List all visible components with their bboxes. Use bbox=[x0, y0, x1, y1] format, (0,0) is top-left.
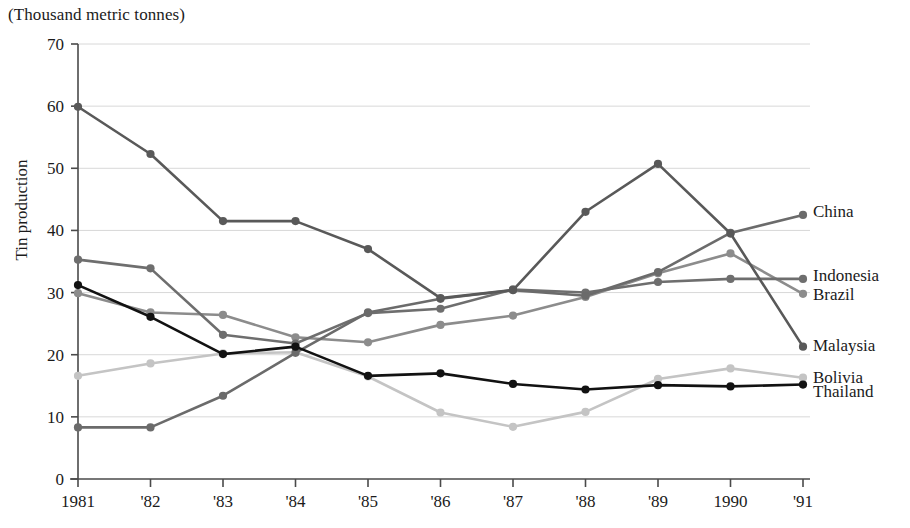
x-tick-label: '88 bbox=[575, 492, 595, 511]
data-point-china bbox=[74, 423, 82, 431]
data-point-indonesia bbox=[654, 278, 662, 286]
data-series-group bbox=[74, 103, 807, 432]
data-point-malaysia bbox=[726, 229, 734, 237]
data-point-bolivia bbox=[581, 408, 589, 416]
data-point-indonesia bbox=[74, 256, 82, 264]
y-tick-labels: 010203040506070 bbox=[47, 35, 64, 489]
data-point-china bbox=[581, 292, 589, 300]
data-point-malaysia bbox=[654, 160, 662, 168]
data-point-thailand bbox=[581, 385, 589, 393]
legend-label-china: China bbox=[813, 202, 854, 222]
data-point-china bbox=[799, 211, 807, 219]
x-tick-label: '86 bbox=[430, 492, 450, 511]
data-point-thailand bbox=[219, 350, 227, 358]
y-tick-label: 30 bbox=[47, 284, 64, 303]
data-point-bolivia bbox=[146, 359, 154, 367]
x-tick-label: '85 bbox=[358, 492, 378, 511]
data-point-thailand bbox=[74, 281, 82, 289]
x-tick-label: '83 bbox=[213, 492, 233, 511]
x-tick-label: '87 bbox=[503, 492, 524, 511]
legend-label-malaysia: Malaysia bbox=[813, 336, 875, 356]
data-point-malaysia bbox=[74, 103, 82, 111]
data-point-brazil bbox=[726, 249, 734, 257]
data-point-thailand bbox=[726, 382, 734, 390]
x-tick-label: '91 bbox=[793, 492, 813, 511]
data-point-china bbox=[654, 268, 662, 276]
data-point-brazil bbox=[219, 311, 227, 319]
legend-label-thailand: Thailand bbox=[813, 382, 873, 402]
x-tick-label: '82 bbox=[140, 492, 160, 511]
data-point-malaysia bbox=[581, 208, 589, 216]
data-point-brazil bbox=[74, 289, 82, 297]
y-tick-label: 10 bbox=[47, 408, 64, 427]
data-point-thailand bbox=[509, 380, 517, 388]
data-point-indonesia bbox=[726, 275, 734, 283]
legend-label-brazil: Brazil bbox=[813, 285, 855, 305]
legend-label-indonesia: Indonesia bbox=[813, 266, 879, 286]
data-point-thailand bbox=[146, 313, 154, 321]
data-point-indonesia bbox=[219, 331, 227, 339]
x-tick-labels: 1981'82'83'84'85'86'87'88'891990'91 bbox=[61, 492, 813, 511]
data-point-thailand bbox=[291, 343, 299, 351]
y-tick-label: 70 bbox=[47, 35, 64, 54]
y-tick-label: 0 bbox=[56, 470, 65, 489]
data-point-bolivia bbox=[74, 372, 82, 380]
data-point-brazil bbox=[509, 311, 517, 319]
plot-area: 010203040506070 1981'82'83'84'85'86'87'8… bbox=[0, 0, 910, 528]
data-point-thailand bbox=[654, 381, 662, 389]
gridlines bbox=[78, 44, 810, 417]
axis-lines bbox=[70, 44, 810, 487]
tin-production-chart: (Thousand metric tonnes) Tin production … bbox=[0, 0, 910, 528]
x-tick-label: '84 bbox=[285, 492, 306, 511]
data-point-brazil bbox=[364, 338, 372, 346]
x-tick-label: 1990 bbox=[714, 492, 748, 511]
data-point-thailand bbox=[436, 369, 444, 377]
x-tick-label: 1981 bbox=[61, 492, 95, 511]
data-point-malaysia bbox=[364, 245, 372, 253]
data-point-china bbox=[219, 392, 227, 400]
data-point-malaysia bbox=[219, 217, 227, 225]
data-point-malaysia bbox=[146, 150, 154, 158]
y-tick-label: 40 bbox=[47, 221, 64, 240]
data-point-china bbox=[146, 423, 154, 431]
y-tick-label: 60 bbox=[47, 97, 64, 116]
data-point-bolivia bbox=[509, 423, 517, 431]
data-point-bolivia bbox=[436, 408, 444, 416]
data-point-brazil bbox=[799, 290, 807, 298]
data-point-thailand bbox=[799, 380, 807, 388]
data-point-indonesia bbox=[436, 305, 444, 313]
data-point-malaysia bbox=[436, 294, 444, 302]
data-point-bolivia bbox=[726, 364, 734, 372]
data-point-malaysia bbox=[509, 286, 517, 294]
data-point-thailand bbox=[364, 372, 372, 380]
data-point-indonesia bbox=[799, 275, 807, 283]
data-point-malaysia bbox=[799, 343, 807, 351]
data-point-brazil bbox=[436, 321, 444, 329]
data-point-malaysia bbox=[291, 217, 299, 225]
data-point-china bbox=[364, 308, 372, 316]
x-tick-label: '89 bbox=[648, 492, 668, 511]
y-tick-label: 50 bbox=[47, 159, 64, 178]
data-point-indonesia bbox=[146, 264, 154, 272]
y-tick-label: 20 bbox=[47, 346, 64, 365]
